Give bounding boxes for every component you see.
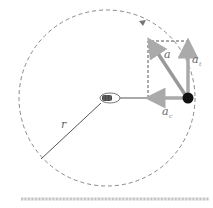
- direction-arrow-icon: [139, 20, 146, 26]
- center-hub-icon: [100, 93, 120, 103]
- tangential-acceleration-label: a: [192, 53, 199, 66]
- tangential-subscript: t: [199, 60, 202, 67]
- radius-line: [41, 103, 101, 159]
- radius-label: r: [61, 118, 67, 131]
- total-acceleration-label: a: [164, 48, 171, 61]
- centripetal-acceleration-label: a: [162, 105, 169, 118]
- centripetal-subscript: c: [169, 112, 173, 119]
- circular-motion-diagram: a a t a c r: [0, 0, 213, 208]
- ball: [183, 93, 194, 104]
